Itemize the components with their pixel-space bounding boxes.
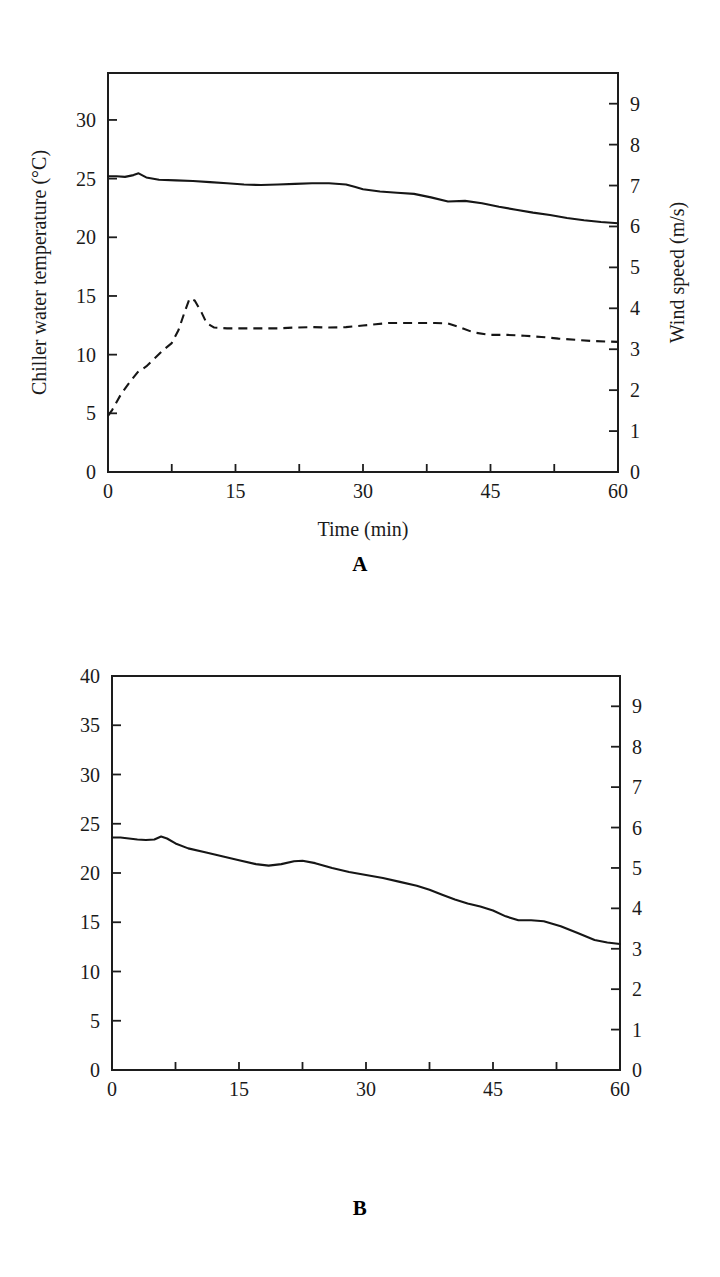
chart-a-svg: 0153045600510152025300123456789Time (min… xyxy=(0,26,720,556)
y-axis-tick-label: 25 xyxy=(80,813,100,835)
y2-axis-tick-label: 6 xyxy=(632,817,642,839)
y2-axis-tick-label: 6 xyxy=(630,215,640,237)
x-axis-tick-label: 60 xyxy=(610,1078,630,1100)
y-axis-tick-label: 0 xyxy=(86,461,96,483)
x-axis-tick-label: 15 xyxy=(226,480,246,502)
x-axis-tick-label: 30 xyxy=(356,1078,376,1100)
y2-axis-tick-label: 4 xyxy=(630,297,640,319)
y2-axis-title: Wind speed (m/s) xyxy=(666,202,689,343)
y-axis-tick-label: 10 xyxy=(76,344,96,366)
y2-axis-tick-label: 7 xyxy=(630,175,640,197)
y-axis-tick-label: 5 xyxy=(90,1010,100,1032)
y-axis-tick-label: 40 xyxy=(80,665,100,687)
y2-axis-tick-label: 7 xyxy=(632,776,642,798)
x-axis-tick-label: 15 xyxy=(229,1078,249,1100)
y-axis-tick-label: 20 xyxy=(76,226,96,248)
y2-axis-tick-label: 1 xyxy=(632,1019,642,1041)
y-axis-tick-label: 5 xyxy=(86,402,96,424)
y2-axis-tick-label: 2 xyxy=(632,978,642,1000)
y2-axis-tick-label: 8 xyxy=(630,134,640,156)
y-axis-tick-label: 30 xyxy=(76,109,96,131)
y2-axis-tick-label: 2 xyxy=(630,379,640,401)
y-axis-tick-label: 10 xyxy=(80,961,100,983)
panel-b-label: B xyxy=(0,1196,720,1221)
x-axis-tick-label: 45 xyxy=(481,480,501,502)
y-axis-tick-label: 0 xyxy=(90,1059,100,1081)
y2-axis-tick-label: 0 xyxy=(632,1059,642,1081)
y-axis-title: Chiller water temperature (°C) xyxy=(28,150,51,395)
series-line-wind-speed xyxy=(108,298,618,415)
y2-axis-tick-label: 1 xyxy=(630,420,640,442)
x-axis-tick-label: 0 xyxy=(103,480,113,502)
y2-axis-tick-label: 4 xyxy=(632,897,642,919)
y-axis-tick-label: 25 xyxy=(76,168,96,190)
plot-frame xyxy=(108,73,618,472)
plot-frame xyxy=(112,676,620,1070)
y-axis-tick-label: 15 xyxy=(76,285,96,307)
chart-b-svg: 01530456005101520253035400123456789 xyxy=(0,630,720,1170)
y-axis-tick-label: 20 xyxy=(80,862,100,884)
y2-axis-tick-label: 9 xyxy=(632,695,642,717)
chart-panel-a: 0153045600510152025300123456789Time (min… xyxy=(0,26,720,626)
x-axis-title: Time (min) xyxy=(318,518,409,541)
y-axis-tick-label: 35 xyxy=(80,714,100,736)
figure-container: 0153045600510152025300123456789Time (min… xyxy=(0,0,720,1277)
series-line-water-temperature xyxy=(112,837,620,944)
y-axis-tick-label: 15 xyxy=(80,911,100,933)
y2-axis-tick-label: 9 xyxy=(630,93,640,115)
y2-axis-tick-label: 5 xyxy=(632,857,642,879)
y2-axis-tick-label: 8 xyxy=(632,736,642,758)
x-axis-tick-label: 30 xyxy=(353,480,373,502)
y2-axis-tick-label: 0 xyxy=(630,461,640,483)
y2-axis-tick-label: 5 xyxy=(630,256,640,278)
chart-panel-b: 01530456005101520253035400123456789 xyxy=(0,630,720,1250)
y2-axis-tick-label: 3 xyxy=(632,938,642,960)
y-axis-tick-label: 30 xyxy=(80,764,100,786)
x-axis-tick-label: 60 xyxy=(608,480,628,502)
y2-axis-tick-label: 3 xyxy=(630,338,640,360)
x-axis-tick-label: 45 xyxy=(483,1078,503,1100)
panel-a-label: A xyxy=(0,552,720,577)
series-line-water-temperature xyxy=(108,173,618,223)
x-axis-tick-label: 0 xyxy=(107,1078,117,1100)
